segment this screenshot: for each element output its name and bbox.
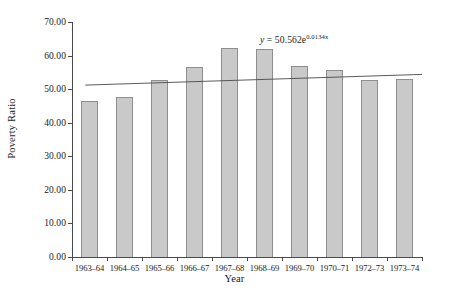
y-axis-tick [68, 22, 72, 23]
y-axis-tick [68, 56, 72, 57]
y-axis-tick-label: 50.00 [44, 84, 66, 94]
x-axis-title-label: Year [224, 273, 244, 284]
y-axis-tick-label: 20.00 [44, 185, 66, 195]
x-axis-tick [352, 257, 353, 261]
bar [326, 70, 344, 257]
y-axis-tick-label: 40.00 [44, 118, 66, 128]
bar [396, 79, 414, 257]
bar [151, 80, 169, 257]
bar [361, 80, 379, 257]
y-axis-tick-label: 70.00 [44, 17, 66, 27]
x-axis-tick-label: 1972–73 [355, 263, 384, 273]
x-axis-tick-label: 1969–70 [285, 263, 314, 273]
x-axis-tick-label: 1970–71 [320, 263, 349, 273]
bar [291, 66, 309, 257]
x-axis-tick-label: 1963–64 [75, 263, 104, 273]
y-axis-line [72, 22, 73, 258]
x-axis-tick [422, 257, 423, 261]
x-axis-tick [387, 257, 388, 261]
x-axis-tick-label: 1965–66 [145, 263, 174, 273]
x-axis-tick [72, 257, 73, 261]
y-axis-title-label: Poverty Ratio [6, 98, 17, 159]
x-axis-tick-label: 1964–65 [110, 263, 139, 273]
bar [256, 49, 274, 257]
y-axis-tick-label: 30.00 [44, 151, 66, 161]
y-axis-tick [68, 223, 72, 224]
y-axis-tick [68, 89, 72, 90]
y-axis-tick [68, 123, 72, 124]
trendline-equation: y = 50.562e0.0134x [260, 34, 328, 45]
bar [116, 97, 134, 257]
bar [81, 101, 99, 257]
equation-exponent: 0.0134x [306, 33, 328, 40]
x-axis-title: Year [0, 273, 469, 284]
x-axis-tick-label: 1968–69 [250, 263, 279, 273]
x-axis-tick-label: 1967–68 [215, 263, 244, 273]
x-axis-tick [142, 257, 143, 261]
poverty-ratio-bar-chart: Poverty Ratio 0.0010.0020.0030.0040.0050… [0, 0, 469, 297]
y-axis-tick [68, 156, 72, 157]
y-axis-tick-label: 10.00 [44, 218, 66, 228]
y-axis-tick [68, 190, 72, 191]
y-axis-tick-label: 60.00 [44, 51, 66, 61]
plot-area: 0.0010.0020.0030.0040.0050.0060.0070.00 … [72, 22, 422, 257]
x-axis-tick [212, 257, 213, 261]
bar [186, 67, 204, 257]
x-axis-tick [107, 257, 108, 261]
x-axis-tick [247, 257, 248, 261]
x-axis-tick-label: 1973–74 [390, 263, 419, 273]
bar [221, 48, 239, 257]
x-axis-tick [282, 257, 283, 261]
equation-prefix: y = 50.562e [260, 34, 306, 45]
x-axis-tick [317, 257, 318, 261]
y-axis-tick-label: 0.00 [49, 252, 66, 262]
x-axis-tick [177, 257, 178, 261]
y-axis-title: Poverty Ratio [2, 0, 20, 257]
x-axis-tick-label: 1966–67 [180, 263, 209, 273]
